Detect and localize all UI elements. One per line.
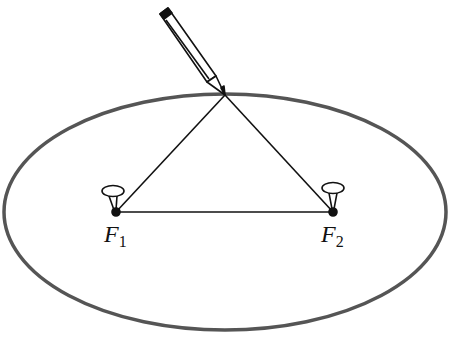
focus-label-f1: F1 — [104, 222, 127, 250]
focus-label-f2: F2 — [321, 222, 344, 250]
pencil-icon — [160, 8, 225, 95]
focus-name: F — [104, 221, 119, 247]
focus-name: F — [321, 221, 336, 247]
ellipse-diagram — [0, 0, 451, 346]
string-triangle — [116, 95, 333, 212]
pin-icon-f1 — [102, 186, 124, 217]
focus-subscript: 2 — [336, 233, 344, 250]
focus-subscript: 1 — [119, 233, 127, 250]
pin-icon-f2 — [322, 183, 344, 217]
